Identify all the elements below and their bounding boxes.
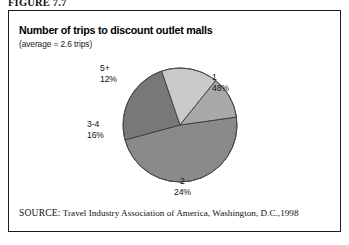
pie-label-2-percent: 24% — [174, 187, 191, 198]
pie-label-5-plus-category: 5+ — [100, 63, 117, 74]
pie-label-5-plus-percent: 12% — [100, 74, 117, 85]
pie-label-2-category: 2 — [174, 176, 191, 187]
chart-title: Number of trips to discount outlet malls — [19, 24, 212, 36]
source-text: Travel Industry Association of America, … — [61, 208, 299, 218]
pie-label-1-category: 1 — [212, 72, 229, 83]
source-note: SOURCE: Travel Industry Association of A… — [19, 207, 299, 218]
pie-label-3-4-category: 3-4 — [87, 119, 104, 130]
pie-label-3-4-percent: 16% — [87, 130, 104, 141]
pie-label-5-plus: 5+ 12% — [100, 63, 117, 84]
figure-number-caption: FIGURE 7.7 — [8, 0, 67, 8]
pie-label-2: 2 24% — [174, 176, 191, 197]
source-kicker: SOURCE: — [19, 207, 61, 218]
chart-subtitle: (average = 2.6 trips) — [19, 39, 92, 49]
pie-label-1-percent: 48% — [212, 83, 229, 94]
pie-label-1: 1 48% — [212, 72, 229, 93]
pie-label-3-4: 3-4 16% — [87, 119, 104, 140]
